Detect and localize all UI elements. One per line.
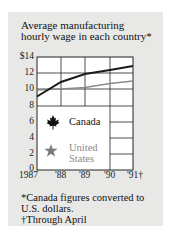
footnote-line-2: U.S. dollars. bbox=[21, 203, 166, 214]
footnote-through-april: †Through April bbox=[21, 214, 166, 225]
footnote-line-1: *Canada figures converted to bbox=[21, 192, 166, 203]
footnote-canada: *Canada figures converted to U.S. dollar… bbox=[21, 192, 166, 214]
legend-us-label-line1: United bbox=[69, 142, 98, 153]
legend-canada-label: Canada bbox=[69, 116, 101, 127]
legend-us-label-line2: States bbox=[69, 153, 94, 164]
